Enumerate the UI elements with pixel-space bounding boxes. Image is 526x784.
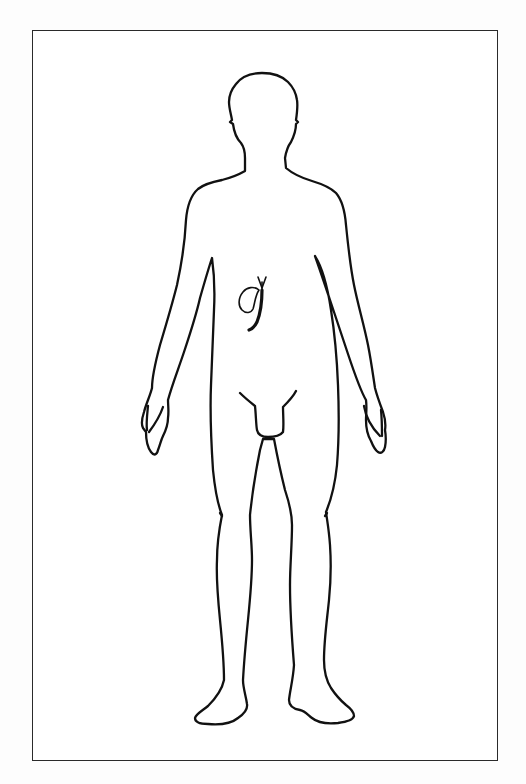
page: Anatomical outline of a male human body,… — [0, 0, 526, 784]
right-hand-finger-line — [381, 410, 382, 436]
left-hand-thumb-line — [149, 407, 163, 432]
gallbladder-icon — [239, 277, 266, 330]
gallbladder-sac — [239, 288, 259, 313]
body-outline — [142, 73, 386, 724]
groin-outline — [240, 391, 296, 437]
left-hand-finger-line — [147, 406, 148, 430]
body-outline-diagram — [0, 0, 526, 784]
